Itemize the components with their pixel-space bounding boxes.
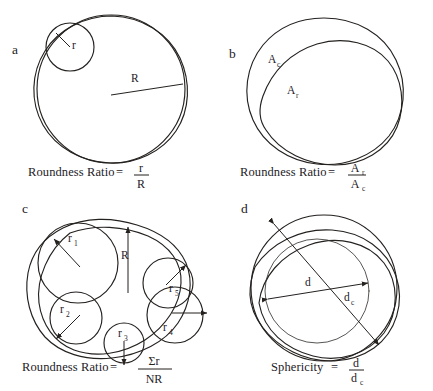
diameter-d-arrow-d: [268, 283, 368, 299]
grain-outline-b: [260, 41, 402, 165]
caption-text-d: Sphericity: [271, 360, 324, 374]
label-r2-sub-c: 2: [66, 310, 70, 319]
label-R-c: R: [121, 249, 129, 261]
caption-equals-b: =: [328, 165, 335, 179]
roundness-sphericity-figure: r R a Roundness Ratio = r R A c A r b: [0, 0, 433, 391]
caption-text-a: Roundness Ratio: [28, 165, 115, 179]
caption-numerator-d: d: [353, 356, 359, 370]
diameter-dc-arrow-d: [274, 224, 379, 345]
label-r4-sub-c: 4: [169, 328, 173, 337]
label-r5-sub-c: 5: [175, 289, 179, 298]
panel-c: r 1 r 2 r 3 r 4 r 5 R c Roundness Ratio: [0, 195, 216, 391]
label-r2-c: r: [60, 303, 64, 315]
panel-letter-c: c: [22, 201, 28, 216]
circumscribed-outline-b: [247, 18, 403, 165]
caption-denominator-c: NR: [146, 372, 163, 386]
panel-a: r R a Roundness Ratio = r R: [0, 0, 216, 196]
caption-numerator-sub-b: r: [362, 168, 365, 177]
caption-text-c: Roundness Ratio: [22, 360, 109, 374]
caption-denominator-d: d: [351, 371, 357, 385]
caption-denominator-sub-d: c: [360, 378, 364, 387]
caption-denominator-sub-b: c: [362, 184, 366, 193]
radius-r-line-a: [56, 33, 70, 47]
label-dc-d: d: [344, 291, 350, 303]
panel-letter-b: b: [229, 46, 236, 61]
label-r1-c: r: [68, 232, 72, 244]
label-R-a: R: [131, 72, 139, 84]
caption-text-b: Roundness Ratio: [240, 165, 327, 179]
label-r1-sub-c: 1: [74, 239, 78, 248]
label-Ar-sub-b: r: [296, 91, 299, 100]
label-Ar-b: A: [287, 84, 296, 96]
caption-denominator-b: A: [351, 177, 360, 191]
panel-d: d d c d Sphericity = d d c: [216, 195, 433, 391]
circumscribed-circle-a: [37, 15, 185, 163]
corner-circle-2-c: [50, 292, 102, 344]
panel-letter-a: a: [12, 42, 18, 57]
panel-b: A c A r b Roundness Ratio = A r A c: [216, 0, 433, 196]
caption-numerator-c: Σr: [149, 354, 160, 368]
corner-circle-1-c: [38, 223, 118, 303]
label-d-d: d: [305, 276, 311, 288]
label-dc-sub-d: c: [351, 298, 355, 307]
caption-denominator-a: R: [137, 177, 145, 191]
caption-numerator-a: r: [139, 161, 143, 175]
label-r5-c: r: [169, 282, 173, 294]
caption-equals-d: =: [331, 360, 338, 374]
label-r3-sub-c: 3: [124, 334, 128, 343]
panel-letter-d: d: [241, 201, 248, 216]
caption-equals-a: =: [116, 165, 123, 179]
label-Ac-b: A: [268, 53, 277, 65]
label-r4-c: r: [163, 321, 167, 333]
label-r-a: r: [72, 39, 76, 51]
caption-equals-c: =: [110, 360, 117, 374]
label-r3-c: r: [118, 327, 122, 339]
caption-numerator-b: A: [351, 161, 360, 175]
radius-R-line-a: [111, 84, 183, 95]
